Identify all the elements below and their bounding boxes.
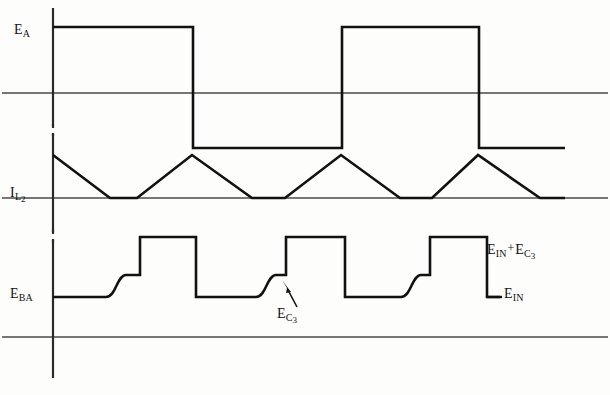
label-ea-base: E bbox=[14, 22, 23, 37]
annotation-label-ein: EIN bbox=[504, 285, 524, 303]
trace-eba bbox=[53, 237, 500, 297]
annotation-label-ein-plus-ec3: EIN+EC3 bbox=[487, 241, 535, 261]
annotation-label-ec3: EC3 bbox=[277, 305, 297, 325]
axis-label-eba: EBA bbox=[10, 285, 33, 303]
label-ec3-base: E bbox=[277, 306, 286, 321]
label-ein-base: E bbox=[504, 286, 513, 301]
label-sum-sub1: IN bbox=[496, 248, 507, 259]
label-ein-sub: IN bbox=[513, 292, 524, 303]
label-ec3-sub2: 3 bbox=[293, 315, 298, 325]
label-ec3-sub: C bbox=[286, 312, 293, 323]
waveform-svg bbox=[0, 0, 610, 395]
axis-label-ea: EA bbox=[14, 21, 30, 39]
trace-il2 bbox=[53, 155, 565, 198]
label-sum-base1: E bbox=[487, 242, 496, 257]
trace-ea bbox=[53, 27, 565, 148]
label-il2-sub2: 2 bbox=[21, 194, 26, 204]
label-ea-sub: A bbox=[23, 28, 30, 39]
ec3-arrow-head bbox=[282, 280, 291, 293]
label-sum-operator: + bbox=[507, 241, 516, 255]
label-eba-base: E bbox=[10, 286, 19, 301]
label-eba-sub: BA bbox=[19, 292, 33, 303]
axis-label-il2: IL2 bbox=[10, 184, 26, 204]
label-sum-base2: E bbox=[515, 242, 524, 257]
waveform-figure: EA IL2 EBA EC3 EIN+EC3 EIN bbox=[0, 0, 610, 395]
label-sum-sub2b: 3 bbox=[531, 251, 536, 261]
label-sum-sub2: C bbox=[524, 248, 531, 259]
